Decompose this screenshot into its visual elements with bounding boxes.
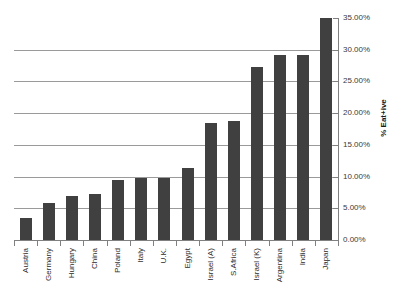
y-axis-tick	[333, 113, 339, 114]
y-axis-title: % Eat+ive	[380, 99, 388, 137]
bar[interactable]	[89, 194, 101, 240]
x-label-slot: Italy	[130, 248, 153, 302]
x-axis-tick	[292, 241, 293, 246]
bar[interactable]	[297, 55, 309, 240]
x-axis-tick-label: Japan	[322, 248, 330, 270]
bar-slot	[199, 18, 222, 240]
x-label-slot: Argentina	[269, 248, 292, 302]
bar-slot	[315, 18, 338, 240]
bar-slot	[292, 18, 315, 240]
x-axis-tick	[199, 241, 200, 246]
x-label-slot: Germany	[37, 248, 60, 302]
bar-slot	[222, 18, 245, 240]
y-axis-tick-label: 5.00%	[343, 204, 366, 212]
bar-slot	[107, 18, 130, 240]
x-axis-tick-label: U.K.	[160, 248, 168, 264]
bar[interactable]	[135, 178, 147, 240]
x-label-slot: Austria	[14, 248, 37, 302]
y-axis-tick-label: 15.00%	[343, 141, 370, 149]
x-axis-tick	[176, 241, 177, 246]
bar[interactable]	[274, 55, 286, 240]
y-axis-tick	[333, 208, 339, 209]
bar[interactable]	[20, 218, 32, 240]
x-axis-tick	[37, 241, 38, 246]
y-axis-tick-label: 20.00%	[343, 109, 370, 117]
bar[interactable]	[205, 123, 217, 240]
x-axis-tick-label: India	[299, 248, 307, 265]
x-axis-tick-label: Israel (A)	[207, 248, 215, 280]
bar-slot	[130, 18, 153, 240]
x-label-slot: China	[83, 248, 106, 302]
y-axis-tick	[333, 18, 339, 19]
bar[interactable]	[228, 121, 240, 240]
plot-area	[14, 18, 338, 240]
x-axis-tick-label: China	[91, 248, 99, 269]
y-axis-tick	[333, 145, 339, 146]
x-axis-tick	[245, 241, 246, 246]
bar-slot	[269, 18, 292, 240]
x-axis-tick	[60, 241, 61, 246]
x-label-slot: S.Africa	[222, 248, 245, 302]
bar-slot	[176, 18, 199, 240]
x-axis-tick-label: Italy	[137, 248, 145, 263]
x-axis-tick-label: Hungary	[68, 248, 76, 278]
x-label-slot: Japan	[315, 248, 338, 302]
x-axis-tick-label: Germany	[45, 248, 53, 281]
x-axis-ticks	[14, 241, 338, 246]
x-axis-tick	[83, 241, 84, 246]
x-label-slot: Poland	[107, 248, 130, 302]
bar-slot	[14, 18, 37, 240]
x-axis-tick-label: Poland	[114, 248, 122, 273]
x-axis-tick	[130, 241, 131, 246]
bar-slot	[60, 18, 83, 240]
bar[interactable]	[43, 203, 55, 240]
bar-slot	[245, 18, 268, 240]
x-axis-tick	[222, 241, 223, 246]
y-axis-tick-label: 30.00%	[343, 46, 370, 54]
x-label-slot: Israel (K)	[245, 248, 268, 302]
y-axis-tick-label: 0.00%	[343, 236, 366, 244]
bar-chart: 0.00%5.00%10.00%15.00%20.00%25.00%30.00%…	[0, 0, 410, 302]
x-label-slot: Hungary	[60, 248, 83, 302]
y-axis-tick-label: 35.00%	[343, 14, 370, 22]
bar-slot	[83, 18, 106, 240]
x-axis-tick-label: Austria	[22, 248, 30, 273]
x-axis-labels: AustriaGermanyHungaryChinaPolandItalyU.K…	[14, 248, 338, 302]
x-label-slot: Egypt	[176, 248, 199, 302]
x-axis-tick-label: S.Africa	[230, 248, 238, 276]
x-axis-tick-label: Israel (K)	[253, 248, 261, 280]
x-axis-tick-label: Egypt	[184, 248, 192, 268]
bar[interactable]	[66, 196, 78, 240]
x-label-slot: U.K.	[153, 248, 176, 302]
x-label-slot: Israel (A)	[199, 248, 222, 302]
bar[interactable]	[182, 168, 194, 240]
bar-slot	[37, 18, 60, 240]
y-axis-tick-label: 25.00%	[343, 77, 370, 85]
bar[interactable]	[320, 18, 332, 240]
y-axis-tick	[333, 81, 339, 82]
bar-slot	[153, 18, 176, 240]
bar[interactable]	[112, 180, 124, 240]
y-axis-tick	[333, 50, 339, 51]
x-axis-tick	[269, 241, 270, 246]
bars-layer	[14, 18, 338, 240]
bar[interactable]	[251, 67, 263, 240]
x-axis-tick-label: Argentina	[276, 248, 284, 282]
y-axis-tick	[333, 177, 339, 178]
y-axis-tick-label: 10.00%	[343, 173, 370, 181]
x-axis-tick	[153, 241, 154, 246]
x-axis-tick	[14, 241, 15, 246]
x-axis-tick	[107, 241, 108, 246]
x-axis-tick	[338, 241, 339, 246]
x-label-slot: India	[292, 248, 315, 302]
x-axis-tick	[315, 241, 316, 246]
bar[interactable]	[158, 178, 170, 240]
